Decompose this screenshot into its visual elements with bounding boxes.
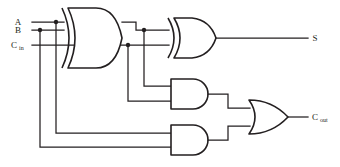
output-label-s: S: [312, 33, 317, 43]
or-gate-body: [249, 100, 288, 134]
and-gate-1-body: [171, 79, 208, 109]
wire-cin-branch-to-and1: [128, 45, 171, 101]
junction-dot-xor1-out: [142, 28, 146, 32]
xor-gate-2-body: [174, 18, 216, 58]
junction-dot-cin: [126, 43, 130, 47]
junction-dot-a: [54, 20, 58, 24]
xor-gate-1-arc: [62, 8, 69, 68]
wire-xor1-branch-to-and1: [144, 30, 171, 86]
xor-gate-2-arc: [168, 18, 174, 58]
input-label-cin: C: [11, 40, 17, 50]
circuit-diagram: A B C in S C out: [0, 0, 340, 167]
input-label-cin-subscript: in: [19, 45, 24, 51]
wire-and1-output: [208, 94, 250, 108]
xor-gate-1-body: [68, 8, 122, 68]
logic-circuit-svg: A B C in S C out: [0, 0, 340, 167]
and-gate-2-body: [171, 125, 208, 155]
wire-and2-output: [208, 126, 250, 140]
input-label-b: B: [15, 25, 21, 35]
junction-dot-b: [38, 28, 42, 32]
output-label-cout: C: [312, 112, 318, 122]
output-label-cout-subscript: out: [320, 117, 328, 123]
